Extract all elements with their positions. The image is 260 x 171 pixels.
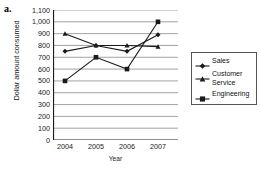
x-tick-label-2005: 2005 bbox=[79, 142, 113, 151]
data-point-engineering-2006 bbox=[125, 67, 130, 72]
y-tick-label: 900 bbox=[24, 30, 50, 37]
panel-letter: a. bbox=[4, 3, 12, 14]
legend-label: Engineering bbox=[212, 90, 249, 99]
y-axis-title: Dollar amount consumed bbox=[12, 1, 21, 121]
x-tick-label-2007: 2007 bbox=[141, 142, 175, 151]
y-axis-tick-labels: 1,1001,0009008007006005004003002001000 bbox=[24, 10, 50, 140]
plot-area bbox=[53, 10, 178, 140]
y-tick-label: 1,000 bbox=[24, 18, 50, 25]
data-point-sales-2006 bbox=[125, 49, 130, 54]
square-marker bbox=[195, 90, 210, 100]
legend-item-customer-service[interactable]: Customer Service bbox=[195, 70, 253, 87]
y-tick-label: 700 bbox=[24, 54, 50, 61]
x-tick-label-2004: 2004 bbox=[48, 142, 82, 151]
y-tick-label: 300 bbox=[24, 101, 50, 108]
y-tick-label: 600 bbox=[24, 66, 50, 73]
legend-item-sales[interactable]: Sales bbox=[195, 57, 253, 67]
x-axis-tick-labels: 2004200520062007 bbox=[53, 142, 178, 154]
legend-item-engineering[interactable]: Engineering bbox=[195, 90, 253, 100]
y-tick-label: 100 bbox=[24, 125, 50, 132]
series-line-customer-service bbox=[65, 34, 158, 47]
data-point-sales-2007 bbox=[156, 32, 161, 37]
y-tick-label: 400 bbox=[24, 89, 50, 96]
series-line-engineering bbox=[65, 22, 158, 81]
figure-container: a. Dollar amount consumed 1,1001,0009008… bbox=[0, 0, 260, 171]
legend-label: Customer Service bbox=[212, 70, 253, 87]
triangle-marker bbox=[195, 70, 210, 80]
x-tick-label-2006: 2006 bbox=[110, 142, 144, 151]
data-point-engineering-2004 bbox=[63, 79, 68, 84]
chart-legend: SalesCustomer ServiceEngineering bbox=[191, 52, 257, 105]
data-point-engineering-2005 bbox=[94, 55, 99, 60]
diamond-marker bbox=[195, 57, 210, 67]
y-tick-label: 500 bbox=[24, 77, 50, 84]
data-point-engineering-2007 bbox=[156, 20, 161, 25]
y-tick-label: 200 bbox=[24, 113, 50, 120]
data-point-sales-2004 bbox=[63, 49, 68, 54]
chart-svg bbox=[53, 10, 178, 140]
legend-label: Sales bbox=[212, 57, 230, 66]
y-tick-label: 0 bbox=[24, 137, 50, 144]
y-tick-label: 1,100 bbox=[24, 7, 50, 14]
y-tick-label: 800 bbox=[24, 42, 50, 49]
x-axis-title: Year bbox=[53, 155, 178, 163]
